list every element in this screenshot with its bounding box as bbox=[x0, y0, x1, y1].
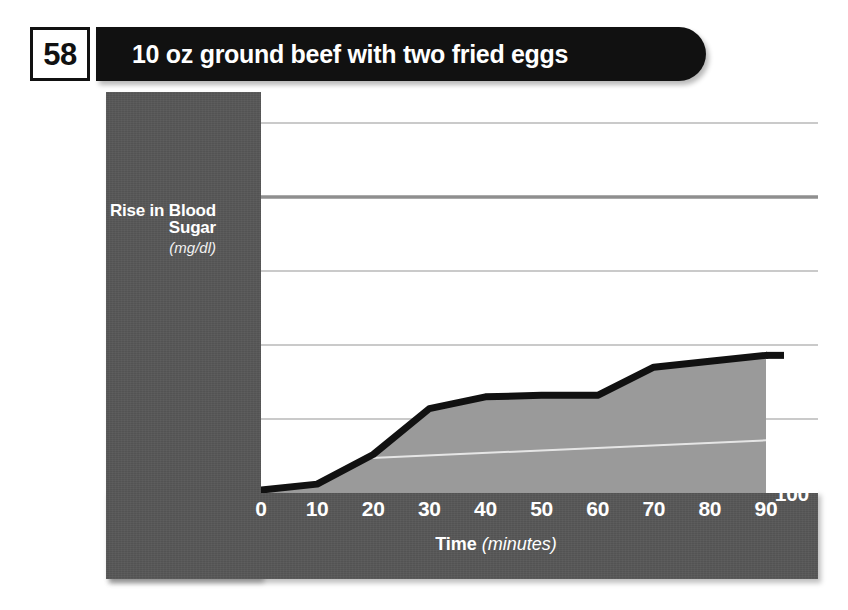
x-tick-0: 0 bbox=[239, 498, 283, 519]
y-axis-title: Rise in Blood Sugar (mg/dl) bbox=[106, 202, 216, 255]
figure-title-bar: 10 oz ground beef with two fried eggs bbox=[96, 27, 706, 81]
x-tick-70: 70 bbox=[632, 498, 676, 519]
y-axis-title-label: Rise in Blood Sugar bbox=[106, 202, 216, 237]
figure-number-box: 58 bbox=[30, 27, 90, 81]
figure-header: 58 10 oz ground beef with two fried eggs bbox=[0, 0, 848, 95]
x-axis-title-label: Time bbox=[435, 534, 477, 554]
x-axis-title: Time (minutes) bbox=[261, 535, 731, 553]
blood-sugar-area-chart bbox=[261, 92, 818, 493]
x-tick-50: 50 bbox=[520, 498, 564, 519]
plot-area bbox=[261, 92, 818, 493]
x-tick-40: 40 bbox=[463, 498, 507, 519]
figure-number: 58 bbox=[43, 39, 76, 70]
y-axis-title-unit: (mg/dl) bbox=[106, 240, 216, 255]
x-axis-title-unit: (minutes) bbox=[482, 534, 557, 554]
x-tick-60: 60 bbox=[576, 498, 620, 519]
x-tick-20: 20 bbox=[351, 498, 395, 519]
x-tick-10: 10 bbox=[295, 498, 339, 519]
x-tick-30: 30 bbox=[407, 498, 451, 519]
x-tick-80: 80 bbox=[688, 498, 732, 519]
x-tick-90: 90 bbox=[744, 498, 788, 519]
page-title: 10 oz ground beef with two fried eggs bbox=[96, 42, 568, 67]
chart-panel: Rise in Blood Sugar (mg/dl) 100150200250… bbox=[106, 92, 818, 579]
